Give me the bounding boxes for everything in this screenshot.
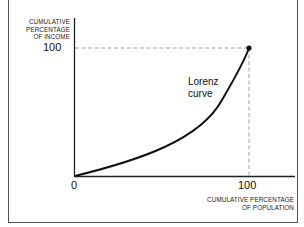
- lorenz-curve-label: Lorenz curve: [188, 76, 219, 99]
- x-tick-0: 0: [71, 179, 77, 191]
- x-axis-label-line: CUMULATIVE PERCENTAGE: [154, 196, 294, 204]
- x-axis-label: CUMULATIVE PERCENTAGE OF POPULATION: [154, 196, 294, 211]
- y-tick-100: 100: [43, 41, 61, 53]
- x-tick-100: 100: [238, 179, 256, 191]
- curve-label-line: Lorenz: [188, 76, 219, 88]
- lorenz-curve: [75, 48, 249, 176]
- y-axis-label-line: OF INCOME: [0, 33, 70, 41]
- y-axis-label-line: PERCENTAGE: [0, 26, 70, 34]
- x-axis-label-line: OF POPULATION: [154, 204, 294, 212]
- curve-label-line: curve: [188, 88, 219, 100]
- endpoint-marker: [246, 45, 251, 50]
- y-axis-label: CUMULATIVE PERCENTAGE OF INCOME: [0, 18, 70, 41]
- y-axis-label-line: CUMULATIVE: [0, 18, 70, 26]
